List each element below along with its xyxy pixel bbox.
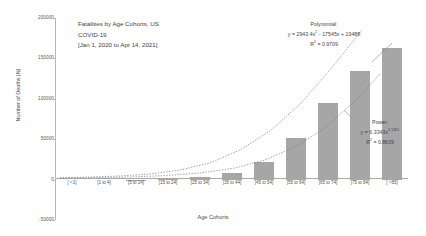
polynomial-label: Polynomial: (244, 20, 404, 28)
bar (382, 48, 402, 180)
polynomial-equation: y = 2943.4x2 - 17545x + 19488 (244, 28, 404, 38)
y-axis-tick-mark (52, 139, 55, 140)
x-axis-title: Age Cohorts (0, 214, 426, 220)
y-axis-tick-mark (52, 18, 55, 19)
bar-slot (120, 22, 152, 180)
bar-slot (152, 22, 184, 180)
power-r2: R2 = 0.8639 (334, 136, 426, 146)
y-axis-tick-mark (52, 58, 55, 59)
power-label: Power: (334, 118, 426, 126)
y-axis-tick-mark (52, 220, 55, 221)
bar (222, 173, 242, 179)
y-axis-ticks: 200000150000100000500000-50000 (0, 0, 54, 236)
covid-fatalities-chart: 200000150000100000500000-50000 Number of… (0, 0, 426, 236)
polynomial-equation-rest: - 17545x + 19488 (317, 31, 360, 37)
polynomial-equation-base: y = 2943.4x (288, 31, 316, 37)
power-annotation: Power: y = 6.3343x3.1361 R2 = 0.8639 (334, 118, 426, 145)
power-equation: y = 6.3343x3.1361 (334, 126, 426, 136)
bar-slot (56, 22, 88, 180)
bar-slot (184, 22, 216, 180)
y-axis-tick-mark (52, 99, 55, 100)
polynomial-r2: R2 = 0.9709 (244, 38, 404, 48)
polynomial-r2-rest: = 0.9709 (316, 40, 338, 46)
power-equation-exponent: 3.1361 (388, 128, 399, 132)
power-equation-base: y = 6.3343x (361, 129, 389, 135)
bar-slot (88, 22, 120, 180)
y-axis-title: Number of Deaths (N) (15, 25, 21, 165)
power-r2-rest: = 0.8639 (372, 138, 394, 144)
bar (254, 162, 274, 180)
polynomial-annotation: Polynomial: y = 2943.4x2 - 17545x + 1948… (244, 20, 404, 47)
x-axis-tick-labels: [ <1][1 to 4][5 to 14][15 to 24][25 to 3… (56, 180, 408, 194)
bar (286, 138, 306, 180)
x-axis-tick-label: [ >85] (372, 180, 412, 185)
